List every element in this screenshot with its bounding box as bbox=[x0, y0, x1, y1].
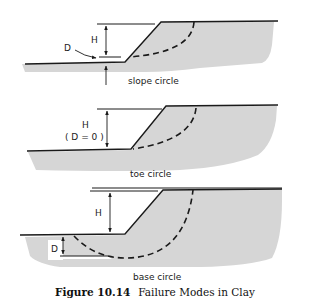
failure-modes-figure: H D slope circle H ( D = 0 ) toe circle … bbox=[0, 0, 310, 305]
d-label: D bbox=[64, 44, 71, 53]
d-pointer-arrow bbox=[75, 50, 96, 58]
figure-caption: Figure 10.14Failure Modes in Clay bbox=[0, 286, 310, 298]
h-label: H bbox=[91, 36, 98, 45]
soil-mass bbox=[22, 22, 274, 72]
panel-caption-toe: toe circle bbox=[130, 170, 171, 179]
panel-base-circle bbox=[20, 189, 282, 267]
h-label: H bbox=[82, 121, 89, 130]
d-equals-zero-note: ( D = 0 ) bbox=[65, 133, 104, 142]
h-label: H bbox=[95, 209, 102, 218]
panel-caption-base: base circle bbox=[133, 273, 181, 282]
figure-number: Figure 10.14 bbox=[55, 286, 130, 298]
figure-title: Failure Modes in Clay bbox=[138, 286, 255, 298]
panel-caption-slope: slope circle bbox=[128, 77, 179, 86]
d-label: D bbox=[51, 245, 58, 254]
